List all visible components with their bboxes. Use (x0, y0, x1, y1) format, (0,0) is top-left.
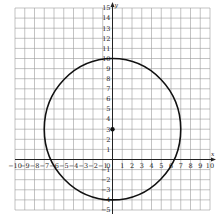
y-axis-label: y (114, 1, 119, 9)
center-point (110, 127, 114, 131)
y-tick-label: 4 (106, 115, 110, 123)
x-tick-label: −3 (78, 162, 88, 170)
y-tick-label: 15 (102, 4, 110, 12)
y-tick-label: 14 (102, 14, 110, 22)
x-tick-label: −8 (30, 162, 40, 170)
x-tick-label: 2 (130, 162, 134, 170)
y-tick-label: 1 (106, 146, 110, 154)
y-tick-label: 5 (106, 105, 110, 113)
x-axis-label: x (211, 150, 215, 157)
y-tick-label: 11 (102, 45, 110, 53)
y-tick-label: 2 (106, 136, 110, 144)
x-tick-label: −9 (20, 162, 30, 170)
y-tick-label: −2 (101, 176, 111, 184)
y-tick-label: −3 (101, 186, 111, 194)
x-tick-label: 8 (188, 162, 192, 170)
x-tick-label: 4 (149, 162, 153, 170)
x-tick-label: 3 (140, 162, 144, 170)
x-tick-label: −5 (59, 162, 69, 170)
y-tick-label: 12 (102, 35, 110, 43)
origin-label: 0 (106, 162, 110, 170)
y-tick-label: 13 (102, 25, 110, 33)
coordinate-plane: xy−10−9−8−7−6−5−4−3−2−112345678910−5−4−3… (0, 0, 218, 221)
y-tick-label: 8 (106, 75, 110, 83)
x-tick-label: −4 (69, 162, 79, 170)
y-tick-label: −5 (101, 206, 111, 214)
x-tick-label: 1 (120, 162, 124, 170)
x-tick-label: −7 (39, 162, 49, 170)
x-tick-label: 9 (198, 162, 202, 170)
y-tick-label: 6 (106, 95, 110, 103)
x-tick-label: 7 (179, 162, 183, 170)
y-tick-label: 9 (106, 65, 110, 73)
y-tick-label: 3 (106, 126, 110, 134)
y-tick-label: 7 (106, 85, 110, 93)
x-tick-label: 10 (206, 162, 214, 170)
x-tick-label: −2 (88, 162, 98, 170)
x-tick-label: 5 (159, 162, 163, 170)
